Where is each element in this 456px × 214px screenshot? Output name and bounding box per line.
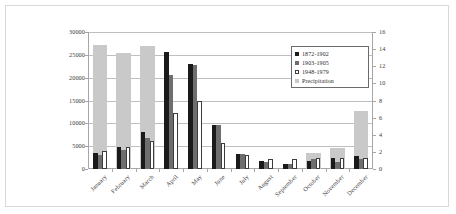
gridline — [89, 123, 372, 124]
bar-1948-1979 — [221, 143, 225, 169]
x-axis-tick — [136, 169, 137, 172]
bar-1948-1979 — [340, 158, 344, 169]
x-axis-tick — [278, 169, 279, 172]
x-axis-tick — [326, 169, 327, 172]
bar-1948-1979 — [126, 147, 130, 169]
legend-label: Precipitation — [302, 78, 334, 84]
x-axis-category-label: April — [164, 173, 179, 188]
legend-swatch-icon — [295, 52, 299, 56]
y-axis-right-tick — [373, 101, 376, 102]
y-axis-right-tick-label: 0 — [379, 165, 382, 172]
x-axis-tick — [254, 169, 255, 172]
y-axis-right-tick — [373, 32, 376, 33]
legend-item[interactable]: 1872-1902 — [295, 49, 365, 58]
y-axis-left-tick-label: 20000 — [57, 74, 85, 81]
bar-1948-1979 — [292, 159, 296, 169]
y-axis-right-tick — [373, 135, 376, 136]
x-axis-category-label: December — [345, 173, 369, 197]
chart-legend: 1872-19021903-19051948-1979Precipitation — [291, 46, 369, 88]
bar-1948-1979 — [316, 158, 320, 169]
x-axis-category-label: July — [237, 173, 250, 186]
legend-swatch-icon — [295, 61, 299, 65]
y-axis-left-tick-label: 5000 — [57, 142, 85, 149]
legend-label: 1872-1902 — [302, 51, 329, 57]
y-axis-right-tick — [373, 83, 376, 84]
y-axis-left-tick — [85, 123, 88, 124]
legend-item[interactable]: Precipitation — [295, 76, 365, 85]
bar-1948-1979 — [150, 141, 154, 169]
bar-1948-1979 — [363, 158, 367, 169]
y-axis-right-tick-label: 10 — [379, 79, 385, 86]
y-axis-right-tick — [373, 49, 376, 50]
y-axis-left-tick — [85, 78, 88, 79]
gridline — [89, 101, 372, 102]
y-axis-left-tick — [85, 55, 88, 56]
x-axis-tick — [349, 169, 350, 172]
y-axis-right-tick — [373, 118, 376, 119]
x-axis-category-label: March — [138, 173, 155, 190]
y-axis-right-tick-label: 8 — [379, 97, 382, 104]
legend-item[interactable]: 1948-1979 — [295, 67, 365, 76]
y-axis-left-tick — [85, 101, 88, 102]
gridline — [89, 146, 372, 147]
y-axis-left-tick — [85, 146, 88, 147]
y-axis-right-tick-label: 12 — [379, 62, 385, 69]
y-axis-right-tick-label: 6 — [379, 114, 382, 121]
legend-label: 1948-1979 — [302, 69, 329, 75]
bar-1948-1979 — [268, 159, 272, 169]
x-axis-category-label: May — [189, 173, 202, 186]
legend-item[interactable]: 1903-1905 — [295, 58, 365, 67]
y-axis-right-tick — [373, 169, 376, 170]
x-axis-tick — [231, 169, 232, 172]
y-axis-left-tick-label: 15000 — [57, 97, 85, 104]
x-axis-tick — [183, 169, 184, 172]
bar-1948-1979 — [197, 101, 201, 170]
y-axis-left-tick-label: 0 — [57, 165, 85, 172]
bar-1948-1979 — [102, 151, 106, 169]
x-axis-category-label: February — [110, 173, 132, 195]
y-axis-left-tick-label: 30000 — [57, 28, 85, 35]
y-axis-left-tick-label: 25000 — [57, 51, 85, 58]
y-axis-left-tick — [85, 32, 88, 33]
y-axis-right-tick — [373, 152, 376, 153]
y-axis-right-tick-label: 14 — [379, 45, 385, 52]
y-axis-right-tick — [373, 66, 376, 67]
x-axis-category-label: October — [302, 173, 322, 193]
y-axis-right-tick-label: 16 — [379, 28, 385, 35]
x-axis-category-label: January — [88, 173, 107, 192]
x-axis-tick — [159, 169, 160, 172]
bar-1948-1979 — [245, 155, 249, 169]
legend-label: 1903-1905 — [302, 60, 329, 66]
x-axis-tick — [207, 169, 208, 172]
bar-1948-1979 — [173, 113, 177, 169]
gridline — [89, 32, 372, 33]
legend-swatch-icon — [295, 79, 299, 83]
x-axis-category-label: September — [273, 173, 298, 198]
x-axis-category-label: November — [321, 173, 345, 197]
x-axis-category-label: June — [213, 173, 226, 186]
y-axis-left-tick — [85, 169, 88, 170]
x-axis-category-label: August — [256, 173, 274, 191]
legend-swatch-icon — [295, 70, 299, 74]
chart-frame: 0500010000150002000025000300000246810121… — [5, 5, 449, 207]
x-axis-tick — [112, 169, 113, 172]
y-axis-right-tick-label: 2 — [379, 148, 382, 155]
y-axis-left-tick-label: 10000 — [57, 119, 85, 126]
y-axis-right-tick-label: 4 — [379, 131, 382, 138]
x-axis-tick — [302, 169, 303, 172]
